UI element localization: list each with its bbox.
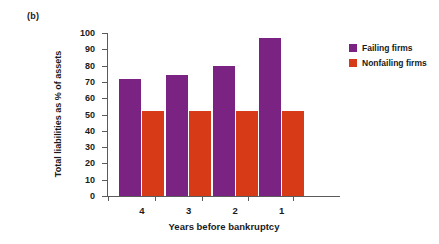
y-tick-label: 30 (85, 143, 95, 152)
y-tick-label: 50 (85, 110, 95, 119)
y-tick-label: 10 (85, 175, 95, 184)
y-tick (102, 180, 107, 181)
x-tick (108, 196, 109, 201)
bar-failing-firms (166, 75, 188, 196)
y-axis-title: Total liabilities as % of assets (53, 51, 63, 177)
legend-swatch-icon (349, 59, 357, 67)
bar-nonfailing-firms (189, 111, 211, 196)
legend-label: Failing firms (362, 44, 413, 53)
bar-nonfailing-firms (236, 111, 258, 196)
legend-item: Failing firms (349, 44, 427, 53)
y-tick-label: 70 (85, 77, 95, 86)
y-tick-label: 80 (85, 61, 95, 70)
x-tick-label: 4 (139, 205, 144, 216)
legend-swatch-icon (349, 44, 357, 52)
x-tick-label: 1 (279, 205, 284, 216)
y-tick (102, 49, 107, 50)
y-tick (102, 66, 107, 67)
legend: Failing firmsNonfailing firms (349, 44, 427, 73)
bar-failing-firms (259, 38, 281, 196)
bar-group (166, 33, 211, 196)
x-tick (293, 196, 294, 201)
y-axis-line (107, 33, 108, 196)
y-tick (102, 147, 107, 148)
y-tick (102, 33, 107, 34)
y-tick (102, 82, 107, 83)
legend-label: Nonfailing firms (362, 59, 427, 68)
y-tick-label: 40 (85, 126, 95, 135)
bar-nonfailing-firms (142, 111, 164, 196)
y-tick (102, 98, 107, 99)
bar-group (119, 33, 164, 196)
y-tick (102, 131, 107, 132)
x-tick (202, 196, 203, 201)
x-tick-label: 2 (232, 205, 237, 216)
figure-panel-b: (b) Total liabilities as % of assets Yea… (0, 0, 439, 244)
x-tick-label: 3 (186, 205, 191, 216)
bar-group (213, 33, 258, 196)
y-tick-label: 90 (85, 45, 95, 54)
y-tick-label: 100 (80, 29, 95, 38)
x-axis-line (107, 196, 340, 197)
y-tick-label: 20 (85, 159, 95, 168)
plot-area: 0102030405060708090100 4321 (107, 33, 340, 196)
y-tick (102, 115, 107, 116)
bar-failing-firms (119, 79, 141, 196)
x-axis-title: Years before bankruptcy (169, 221, 280, 232)
x-tick (248, 196, 249, 201)
panel-label: (b) (27, 11, 39, 21)
y-tick (102, 163, 107, 164)
bar-nonfailing-firms (282, 111, 304, 196)
y-tick-label: 0 (90, 192, 95, 201)
bar-group (259, 33, 304, 196)
y-tick (102, 196, 107, 197)
x-tick (155, 196, 156, 201)
bar-failing-firms (213, 66, 235, 196)
y-tick-label: 60 (85, 94, 95, 103)
legend-item: Nonfailing firms (349, 59, 427, 68)
